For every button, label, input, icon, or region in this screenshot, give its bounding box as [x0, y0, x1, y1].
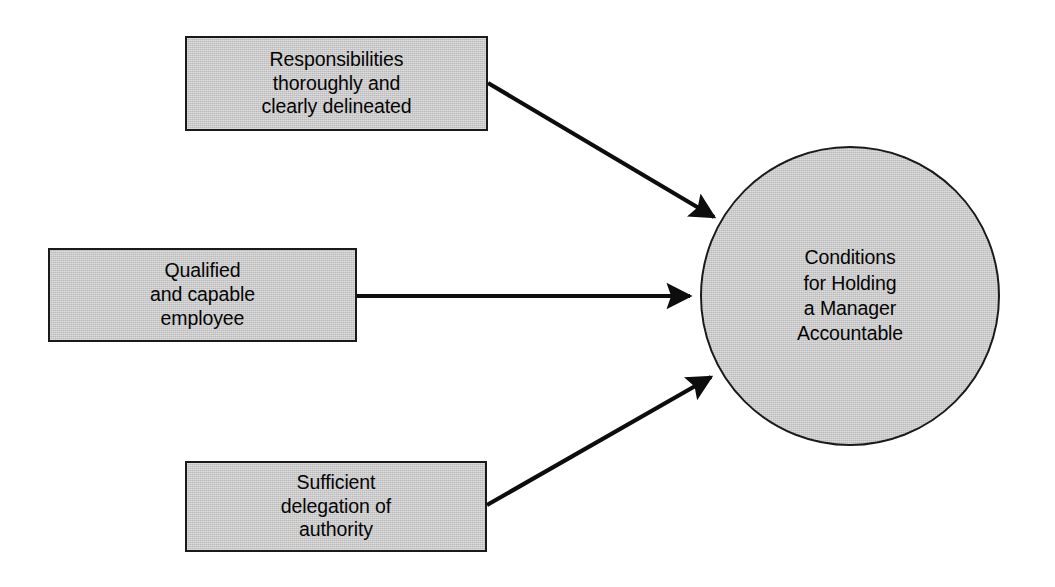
node-qualified: Qualified and capable employee [48, 248, 357, 342]
node-responsibilities: Responsibilities thoroughly and clearly … [185, 36, 488, 131]
arrow-delegation-to-outcome [487, 377, 711, 505]
node-outcome-label: Conditions for Holding a Manager Account… [797, 245, 903, 346]
node-delegation-label: Sufficient delegation of authority [281, 471, 391, 542]
diagram-canvas: Responsibilities thoroughly and clearly … [0, 0, 1055, 587]
node-outcome-circle: Conditions for Holding a Manager Account… [700, 146, 1000, 446]
node-qualified-label: Qualified and capable employee [150, 259, 255, 330]
node-responsibilities-label: Responsibilities thoroughly and clearly … [262, 48, 412, 119]
arrow-responsibilities-to-outcome [488, 83, 714, 217]
node-delegation: Sufficient delegation of authority [185, 461, 487, 552]
